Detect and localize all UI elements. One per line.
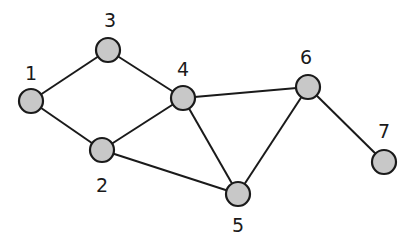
- node-label: 5: [232, 214, 244, 236]
- node-5: 5: [226, 182, 250, 236]
- graph-canvas: 1234567: [0, 0, 406, 246]
- node-3: 3: [96, 9, 120, 62]
- nodes-layer: 1234567: [19, 9, 396, 236]
- node-label: 6: [300, 46, 312, 68]
- edge-2-4: [102, 98, 183, 150]
- node-7: 7: [372, 120, 396, 174]
- edge-6-5: [238, 87, 308, 194]
- node-1: 1: [19, 62, 43, 113]
- node-label: 2: [96, 174, 108, 196]
- node-6: 6: [296, 46, 320, 99]
- node-circle: [171, 86, 195, 110]
- node-label: 7: [378, 120, 390, 142]
- node-label: 1: [25, 62, 37, 84]
- node-circle: [90, 138, 114, 162]
- node-circle: [96, 38, 120, 62]
- node-circle: [296, 75, 320, 99]
- edge-4-6: [183, 87, 308, 98]
- edges-layer: [31, 50, 384, 194]
- node-circle: [372, 150, 396, 174]
- node-4: 4: [171, 58, 195, 110]
- node-circle: [226, 182, 250, 206]
- node-label: 4: [177, 58, 189, 80]
- edge-6-7: [308, 87, 384, 162]
- edge-3-4: [108, 50, 183, 98]
- node-label: 3: [104, 9, 116, 31]
- edge-1-3: [31, 50, 108, 101]
- node-circle: [19, 89, 43, 113]
- graph-diagram: 1234567: [0, 0, 406, 246]
- node-2: 2: [90, 138, 114, 196]
